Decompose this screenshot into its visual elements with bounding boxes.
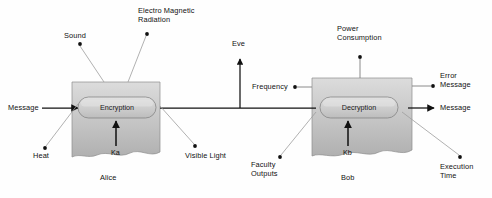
label-electro-magnetic-radiation: Electro Magnetic Radiation xyxy=(138,7,195,24)
label-eve: Eve xyxy=(232,40,245,49)
dot-heat xyxy=(43,146,47,150)
label-actor-bob: Bob xyxy=(341,174,354,183)
label-decryption-process: Decryption xyxy=(320,103,398,112)
leader-sound xyxy=(80,46,104,82)
label-encryption-process: Encryption xyxy=(78,103,156,112)
dot-visible-light xyxy=(193,144,197,148)
label-key-ka: Ka xyxy=(111,148,120,157)
dot-sound xyxy=(78,42,82,46)
label-visible-light: Visible Light xyxy=(185,152,226,161)
label-execution-time: Execution Time xyxy=(440,163,473,180)
dot-error-message xyxy=(431,84,435,88)
diagram-vector-layer xyxy=(0,0,492,198)
label-faculty-outputs: Faculty Outputs xyxy=(251,161,278,178)
label-frequency: Frequency xyxy=(252,83,288,92)
dot-power-consumption xyxy=(358,55,362,59)
label-key-kb: Kb xyxy=(343,148,352,157)
diagram-canvas: Sound Electro Magnetic Radiation Heat Vi… xyxy=(0,0,492,198)
label-sound: Sound xyxy=(64,32,86,41)
leader-faculty-outputs xyxy=(281,112,316,155)
label-actor-alice: Alice xyxy=(100,174,117,183)
dot-frequency xyxy=(293,85,297,89)
dot-faculty-outputs xyxy=(278,155,282,159)
leader-visible-light xyxy=(160,106,194,144)
label-output-message: Message xyxy=(440,104,471,113)
dot-execution-time xyxy=(458,155,462,159)
label-power-consumption: Power Consumption xyxy=(337,25,382,42)
label-input-message: Message xyxy=(8,104,39,113)
label-heat: Heat xyxy=(33,152,49,161)
leader-emr xyxy=(128,36,146,82)
dot-emr xyxy=(145,32,149,36)
label-error-message: Error Message xyxy=(440,72,471,89)
